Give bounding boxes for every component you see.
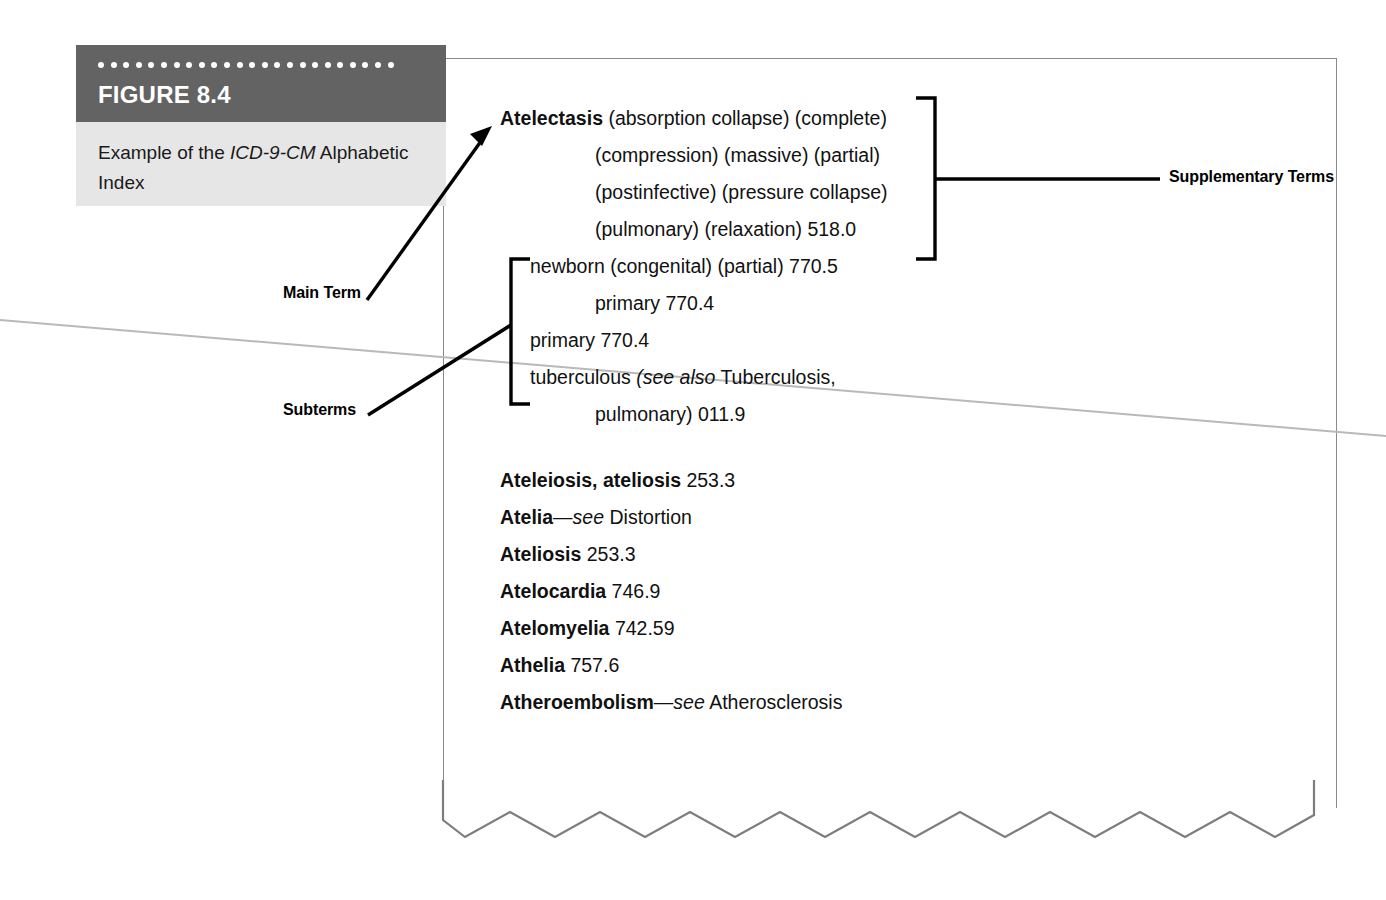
- entry-dash: —: [654, 691, 674, 713]
- entry-term: Athelia: [500, 654, 565, 676]
- index-entry: Ateliosis 253.3: [500, 536, 930, 573]
- index-entry: Atheroembolism—see Atherosclerosis: [500, 684, 930, 721]
- index-entry: Atelomyelia 742.59: [500, 610, 930, 647]
- index-entry-list: Ateleiosis, ateliosis 253.3 Atelia—see D…: [500, 462, 930, 721]
- subterm-line: primary 770.4: [500, 285, 930, 322]
- figure-caption-body: Example of the ICD-9-CM Alphabetic Index: [76, 122, 446, 206]
- entry-code: 757.6: [565, 654, 619, 676]
- entry-crossref: Atherosclerosis: [705, 691, 843, 713]
- figure-number: FIGURE 8.4: [98, 81, 231, 109]
- entry-code: 253.3: [681, 469, 735, 491]
- entry-dash: —: [553, 506, 573, 528]
- callout-label-subterms: Subterms: [283, 401, 356, 419]
- index-entry: Atelocardia 746.9: [500, 573, 930, 610]
- entry-code: 742.59: [609, 617, 674, 639]
- entry-code: 253.3: [581, 543, 635, 565]
- entry-term: Ateliosis: [500, 543, 581, 565]
- entry-term: Atelomyelia: [500, 617, 609, 639]
- see-also-target: Tuberculosis,: [715, 366, 835, 388]
- index-entry: Ateleiosis, ateliosis 253.3: [500, 462, 930, 499]
- figure-caption-box: FIGURE 8.4 Example of the ICD-9-CM Alpha…: [76, 45, 446, 206]
- figure-caption-text: Example of the ICD-9-CM Alphabetic Index: [98, 138, 424, 198]
- main-term-supplementary: (absorption collapse) (complete): [603, 107, 887, 129]
- main-term-continuation-line: (compression) (massive) (partial): [500, 137, 930, 174]
- subterm-text: tuberculous: [530, 366, 636, 388]
- callout-label-main-term: Main Term: [283, 284, 361, 302]
- entry-crossref: Distortion: [604, 506, 692, 528]
- index-entry-block: Atelectasis (absorption collapse) (compl…: [500, 100, 930, 433]
- dot-decoration-row: [98, 62, 394, 68]
- entry-code: 746.9: [606, 580, 660, 602]
- entry-term: Atelia: [500, 506, 553, 528]
- entry-term: Ateleiosis, ateliosis: [500, 469, 681, 491]
- caption-prefix: Example of the: [98, 142, 230, 163]
- figure-caption-band: FIGURE 8.4: [76, 45, 446, 122]
- caption-italic-title: ICD-9-CM: [230, 142, 316, 163]
- subterm-line-crossref: tuberculous (see also Tuberculosis,: [500, 359, 930, 396]
- main-term-continuation-line: (postinfective) (pressure collapse): [500, 174, 930, 211]
- entry-term: Atelocardia: [500, 580, 606, 602]
- subterm-line: pulmonary) 011.9: [500, 396, 930, 433]
- see-italic: see: [673, 691, 704, 713]
- index-entry: Atelia—see Distortion: [500, 499, 930, 536]
- torn-page-edge-icon: [420, 780, 1360, 860]
- see-also-italic: (see also: [636, 366, 715, 388]
- main-term-continuation-line: (pulmonary) (relaxation) 518.0: [500, 211, 930, 248]
- figure-canvas: FIGURE 8.4 Example of the ICD-9-CM Alpha…: [0, 0, 1386, 900]
- entry-term: Atheroembolism: [500, 691, 654, 713]
- subterm-line: newborn (congenital) (partial) 770.5: [500, 248, 930, 285]
- index-entry: Athelia 757.6: [500, 647, 930, 684]
- see-italic: see: [573, 506, 604, 528]
- subterm-line: primary 770.4: [500, 322, 930, 359]
- main-term-line: Atelectasis (absorption collapse) (compl…: [500, 100, 930, 137]
- main-term-text: Atelectasis: [500, 107, 603, 129]
- callout-label-supplementary-terms: Supplementary Terms: [1169, 168, 1334, 186]
